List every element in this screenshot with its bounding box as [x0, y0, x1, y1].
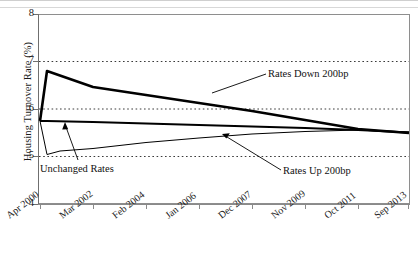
- y-axis-label: 8: [8, 8, 34, 18]
- x-tick-3: [199, 204, 200, 209]
- annotation-rates-up: Rates Up 200bp: [283, 165, 351, 176]
- x-tick-4: [252, 204, 253, 209]
- x-tick-7: [408, 204, 409, 209]
- y-axis-label: 5: [8, 150, 34, 160]
- annotation-unchanged-rates: Unchanged Rates: [40, 163, 114, 174]
- y-axis-label: 6: [8, 103, 34, 113]
- y-axis-label: 7: [8, 55, 34, 65]
- x-tick-6: [358, 204, 359, 209]
- plot-area-frame: [38, 14, 410, 204]
- page-edge-rule-secondary: [0, 7, 418, 8]
- page-edge-rule-top: [0, 0, 418, 1]
- x-tick-1: [93, 204, 94, 209]
- x-tick-5: [305, 204, 306, 209]
- x-tick-2: [146, 204, 147, 209]
- x-tick-0: [40, 204, 41, 209]
- chart-figure: Housing Turnover Rate (%) 8 7 6 5 4 Apr …: [0, 0, 418, 260]
- y-axis-line: [38, 14, 39, 205]
- annotation-rates-down: Rates Down 200bp: [268, 68, 349, 79]
